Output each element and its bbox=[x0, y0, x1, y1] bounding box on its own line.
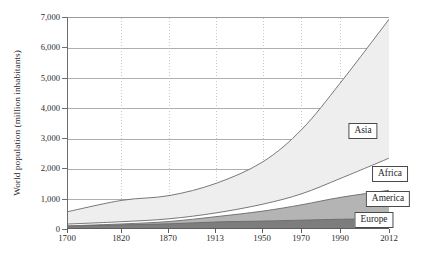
series-label-europe: Europe bbox=[354, 212, 393, 228]
stacked-area-series bbox=[68, 18, 389, 229]
series-label-america: America bbox=[366, 191, 410, 207]
series-label-africa: Africa bbox=[372, 166, 408, 182]
plot-area bbox=[67, 17, 389, 229]
y-tick-label: 2,000 bbox=[14, 163, 60, 173]
x-tick-mark bbox=[215, 229, 216, 233]
y-tick-label: 6,000 bbox=[14, 42, 60, 52]
x-tick-mark bbox=[389, 229, 390, 233]
x-tick-mark bbox=[301, 229, 302, 233]
y-tick-label: 5,000 bbox=[14, 73, 60, 83]
x-tick-mark bbox=[262, 229, 263, 233]
x-tick-label: 1700 bbox=[37, 233, 97, 243]
series-label-asia: Asia bbox=[348, 123, 377, 139]
y-tick-label: 7,000 bbox=[14, 12, 60, 22]
x-tick-label: 2012 bbox=[359, 233, 419, 243]
y-tick-label: 3,000 bbox=[14, 133, 60, 143]
y-tick-label: 4,000 bbox=[14, 103, 60, 113]
y-tick-label: 1,000 bbox=[14, 194, 60, 204]
world-population-area-chart: World population (million inhabitants) 0… bbox=[0, 0, 429, 262]
x-tick-mark bbox=[168, 229, 169, 233]
x-axis-tick-labels: 17001820187019131950197019902012 bbox=[0, 233, 429, 255]
x-tick-mark bbox=[340, 229, 341, 233]
y-axis-tick-labels: 01,0002,0003,0004,0005,0006,0007,000 bbox=[14, 17, 60, 229]
x-tick-mark bbox=[67, 229, 68, 233]
x-tick-mark bbox=[121, 229, 122, 233]
